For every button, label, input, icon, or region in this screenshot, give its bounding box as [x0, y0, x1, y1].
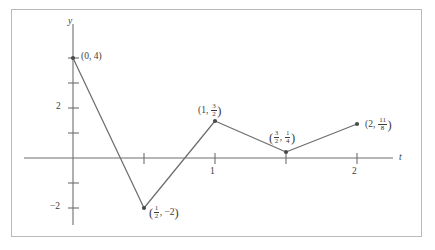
point-label-2-eleven-eighths: (2, 118)	[365, 117, 392, 132]
paren-close: )	[175, 206, 179, 220]
figure-container: y t 1 2 2 −2 (0, 4) (12, −2) (1, 32) (32…	[0, 0, 435, 250]
plot-frame: y t 1 2 2 −2 (0, 4) (12, −2) (1, 32) (32…	[11, 9, 422, 237]
paren-open: (	[149, 206, 153, 220]
x-value: (1,	[198, 105, 211, 115]
point-label-half-neg2: (12, −2)	[149, 205, 179, 220]
value-separator: ,	[280, 132, 285, 142]
paren-close: )	[387, 118, 391, 132]
y-axis-label: y	[68, 16, 72, 26]
fraction-eleven-eighths: 118	[378, 117, 387, 132]
paren-close: )	[217, 104, 221, 118]
fraction-three-halves: 32	[211, 103, 217, 118]
x-value: (2,	[365, 119, 378, 129]
y-tick-label-2: 2	[56, 101, 61, 111]
fraction-three-halves: 32	[274, 130, 280, 145]
point-label-1-three-halves: (1, 32)	[198, 103, 221, 118]
data-polyline	[73, 58, 357, 208]
x-tick-label-1: 1	[210, 166, 215, 176]
x-axis-label: t	[399, 152, 402, 162]
y-tick-label-neg2: −2	[50, 201, 60, 211]
point-label-three-halves-quarter: (32, 14)	[269, 130, 295, 145]
point-label-0-4: (0, 4)	[81, 51, 102, 61]
plot-canvas	[12, 10, 421, 236]
fraction-one-half: 12	[154, 205, 160, 220]
paren-close: )	[291, 131, 295, 145]
paren-open: (	[269, 131, 273, 145]
fraction-one-quarter: 14	[285, 130, 291, 145]
y-value: , −2	[160, 207, 175, 217]
data-point-markers	[71, 56, 359, 210]
x-tick-label-2: 2	[352, 166, 357, 176]
